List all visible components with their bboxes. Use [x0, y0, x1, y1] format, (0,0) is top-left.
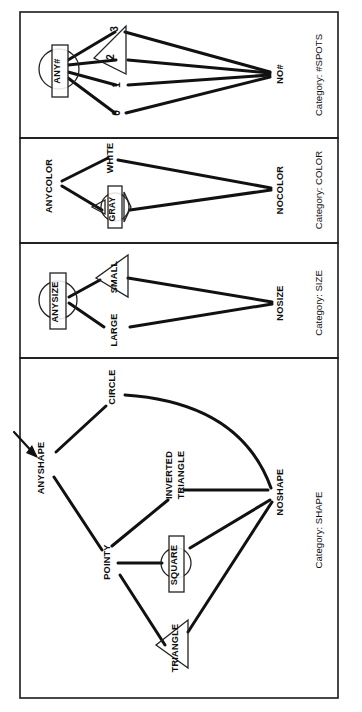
node-label-spot-3: 3 [109, 26, 120, 32]
node-label-circle: CIRCLE [107, 369, 117, 404]
node-label-any-spots: ANY# [52, 58, 62, 83]
category-lattice-figure: ANY# 3 2 1 0 NO# Category: #SPOTS ANYCOL… [0, 0, 362, 712]
node-label-nosize: NOSIZE [275, 285, 285, 320]
node-label-anycolor: ANYCOLOR [44, 159, 54, 213]
node-label-spot-0: 0 [111, 110, 122, 116]
node-label-anysize: ANYSIZE [50, 281, 60, 322]
node-label-pointy: POINTY [102, 544, 112, 579]
node-label-inverted: INVERTED [164, 451, 174, 499]
node-label-triangle: TRIANGLE [170, 624, 180, 673]
diagram-canvas: ANY# 3 2 1 0 NO# Category: #SPOTS ANYCOL… [0, 0, 362, 712]
panel-caption-shape: Category: SHAPE [313, 492, 324, 569]
node-label-spot-1: 1 [111, 82, 122, 88]
node-label-gray: GRAY [107, 197, 117, 222]
node-label-small: SMALL [109, 260, 119, 293]
figure-background [0, 0, 362, 712]
node-label-large: LARGE [109, 313, 119, 346]
node-label-square: SQUARE [169, 545, 179, 586]
node-label-anyshape: ANYSHAPE [36, 442, 46, 495]
panel-caption-spots: Category: #SPOTS [313, 34, 324, 116]
panel-caption-size: Category: SIZE [313, 270, 324, 336]
node-label-nocolor: NOCOLOR [275, 166, 285, 215]
node-label-noshape: NOSHAPE [275, 469, 285, 516]
node-label-no-spots: NO# [275, 64, 285, 84]
node-label-white: WHITE [105, 143, 115, 174]
panel-caption-color: Category: COLOR [313, 151, 324, 229]
node-label-spot-2: 2 [105, 54, 116, 60]
node-label-inverted-triangle-word: TRIANGLE [176, 451, 186, 500]
